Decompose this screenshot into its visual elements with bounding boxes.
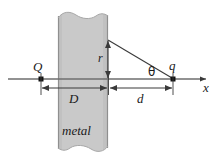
label-thickness-D: D <box>69 92 78 105</box>
physics-diagram-figure: Q q x θ r D d metal <box>0 0 223 161</box>
label-angle-theta: θ <box>148 66 155 78</box>
label-distance-d: d <box>137 92 144 105</box>
hypotenuse-line <box>108 40 172 78</box>
diagram-canvas <box>0 0 223 161</box>
label-charge-Q: Q <box>33 60 42 73</box>
label-distance-r: r <box>98 52 103 64</box>
label-x-axis: x <box>203 81 209 94</box>
label-charge-q: q <box>169 59 176 72</box>
label-material-metal: metal <box>62 124 91 137</box>
